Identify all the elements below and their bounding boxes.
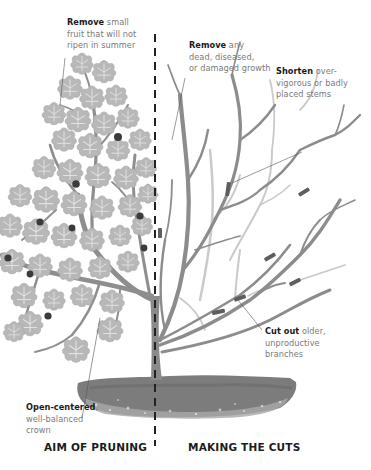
callout-cut-out-line2: unproductive <box>265 338 320 348</box>
callout-remove-dead: Remove any dead, diseased, or damaged gr… <box>189 40 271 75</box>
callout-remove-fruit-text: small <box>104 17 129 27</box>
callout-shorten-bold: Shorten <box>276 66 313 76</box>
section-label-aim-of-pruning: AIM OF PRUNING <box>44 441 147 453</box>
callout-cut-out-line3: branches <box>265 349 303 359</box>
callout-remove-dead-line2: dead, diseased, <box>189 52 254 62</box>
callout-cut-out: Cut out older, unproductive branches <box>265 326 326 361</box>
callout-shorten-line3: placed stems <box>276 89 331 99</box>
fig-leaves <box>0 53 158 362</box>
callout-remove-fruit: Remove small fruit that will not ripen i… <box>67 17 136 52</box>
callout-open-centered-bold: Open-centered <box>26 402 95 412</box>
callout-remove-dead-line3: or damaged growth <box>189 63 271 73</box>
callout-remove-fruit-bold: Remove <box>67 17 104 27</box>
pruning-diagram: Remove small fruit that will not ripen i… <box>0 0 371 470</box>
soil-mound <box>77 375 296 419</box>
callout-cut-out-bold: Cut out <box>265 326 299 336</box>
callout-shorten-text: over- <box>313 66 337 76</box>
callout-open-centered-line3: crown <box>26 425 51 435</box>
callout-shorten: Shorten over- vigorous or badly placed s… <box>276 66 348 101</box>
callout-remove-fruit-line3: ripen in summer <box>67 40 135 50</box>
callout-cut-out-text: older, <box>299 326 325 336</box>
callout-open-centered: Open-centered, well-balanced crown <box>26 402 98 437</box>
callout-remove-dead-bold: Remove <box>189 40 226 50</box>
callout-shorten-line2: vigorous or badly <box>276 78 348 88</box>
callout-open-centered-text: , <box>95 402 98 412</box>
callout-open-centered-line2: well-balanced <box>26 414 83 424</box>
callout-remove-dead-text: any <box>226 40 244 50</box>
section-label-making-the-cuts: MAKING THE CUTS <box>188 441 300 453</box>
callout-remove-fruit-line2: fruit that will not <box>67 29 136 39</box>
